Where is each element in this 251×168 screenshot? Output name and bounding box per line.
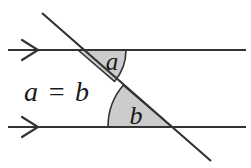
equation-label: a = b — [24, 76, 90, 107]
angle-b-label: b — [130, 101, 143, 130]
angle-a-label: a — [106, 48, 119, 75]
geometry-diagram-canvas: a b a = b — [0, 0, 251, 168]
geometry-figure: a b a = b — [0, 0, 251, 168]
